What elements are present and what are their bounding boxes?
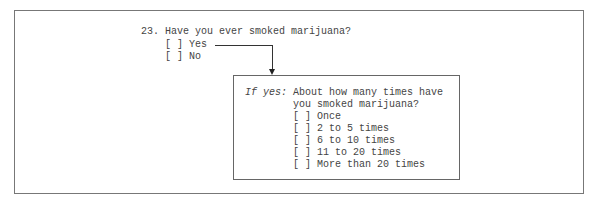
followup-text-2: you smoked marijuana?: [293, 99, 419, 111]
checkbox-no[interactable]: [ ]: [165, 51, 183, 62]
followup-line1: If yes: About how many times have: [245, 87, 443, 99]
followup-option-2-5[interactable]: [ ] 2 to 5 times: [293, 123, 389, 135]
checkbox-6-10[interactable]: [ ]: [293, 135, 311, 146]
checkbox-11-20[interactable]: [ ]: [293, 147, 311, 158]
skip-connector-vertical: [272, 45, 273, 70]
option-label: Once: [317, 111, 341, 122]
option-label: 11 to 20 times: [317, 147, 401, 158]
skip-connector-horizontal: [215, 45, 273, 46]
checkbox-more-20[interactable]: [ ]: [293, 159, 311, 170]
followup-condition: If yes:: [245, 87, 287, 98]
followup-option-6-10[interactable]: [ ] 6 to 10 times: [293, 135, 395, 147]
option-label: More than 20 times: [317, 159, 425, 170]
question-line: 23. Have you ever smoked marijuana?: [141, 26, 351, 38]
option-label: 2 to 5 times: [317, 123, 389, 134]
option-yes-label: Yes: [189, 39, 207, 50]
checkbox-yes[interactable]: [ ]: [165, 39, 183, 50]
option-yes[interactable]: [ ] Yes: [165, 39, 207, 51]
followup-option-11-20[interactable]: [ ] 11 to 20 times: [293, 147, 401, 159]
checkbox-2-5[interactable]: [ ]: [293, 123, 311, 134]
question-number: 23.: [141, 26, 159, 37]
checkbox-once[interactable]: [ ]: [293, 111, 311, 122]
option-label: 6 to 10 times: [317, 135, 395, 146]
followup-option-once[interactable]: [ ] Once: [293, 111, 341, 123]
option-no-label: No: [189, 51, 201, 62]
question-text: Have you ever smoked marijuana?: [165, 26, 351, 37]
followup-option-more-20[interactable]: [ ] More than 20 times: [293, 159, 425, 171]
option-no[interactable]: [ ] No: [165, 51, 201, 63]
followup-text-1: About how many times have: [293, 87, 443, 98]
